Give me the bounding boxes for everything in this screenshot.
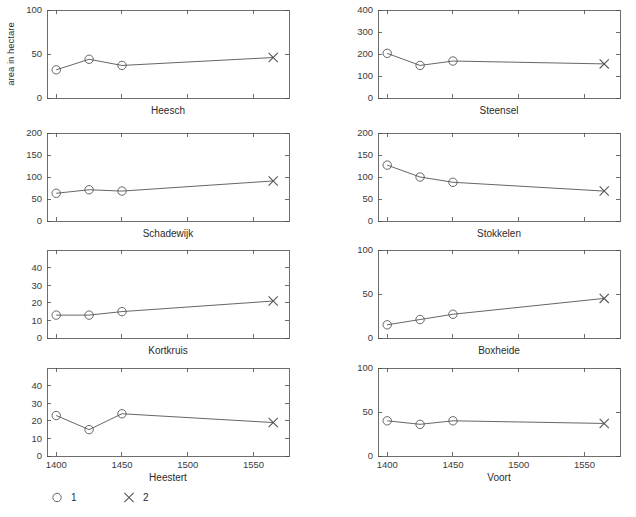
- panel-kortkruis: 010203040Kortkruis: [31, 250, 289, 356]
- y-tick-label: 150: [357, 149, 373, 160]
- y-tick-label: 100: [357, 70, 373, 81]
- y-tick-label: 200: [26, 127, 42, 138]
- plot-box: [378, 368, 620, 456]
- y-tick-label: 50: [362, 406, 373, 417]
- y-tick-label: 100: [26, 4, 42, 15]
- y-tick-label: 0: [368, 332, 373, 343]
- y-tick-label: 0: [37, 215, 42, 226]
- y-tick-label: 10: [31, 315, 42, 326]
- panel-voort: 0501001400145015001550Voort: [357, 362, 620, 483]
- panel-title-heestert: Heestert: [149, 472, 187, 483]
- y-tick-label: 30: [31, 280, 42, 291]
- y-tick-label: 30: [31, 398, 42, 409]
- panel-title-boxheide: Boxheide: [478, 345, 520, 356]
- plot-box: [378, 133, 620, 221]
- y-tick-label: 40: [31, 262, 42, 273]
- y-tick-label: 100: [357, 362, 373, 373]
- y-tick-label: 200: [357, 48, 373, 59]
- panel-schadewijk: 050100150200Schadewijk: [26, 127, 289, 239]
- y-tick-label: 0: [368, 450, 373, 461]
- figure-canvas: 050100Heesch0100200300400Steensel0501001…: [0, 0, 636, 517]
- panel-title-heesch: Heesch: [151, 105, 185, 116]
- panel-boxheide: 050100Boxheide: [357, 244, 620, 356]
- y-tick-label: 300: [357, 26, 373, 37]
- x-tick-label: 1400: [377, 459, 398, 470]
- x-tick-label: 1500: [177, 459, 198, 470]
- x-tick-label: 1450: [111, 459, 132, 470]
- plot-box: [47, 133, 289, 221]
- panel-title-voort: Voort: [487, 472, 511, 483]
- x-tick-label: 1450: [442, 459, 463, 470]
- y-tick-label: 100: [357, 244, 373, 255]
- legend-label-1: 1: [71, 492, 77, 503]
- panel-title-kortkruis: Kortkruis: [148, 345, 187, 356]
- y-tick-label: 20: [31, 415, 42, 426]
- y-axis-label: area in hectare: [5, 22, 16, 85]
- plot-box: [47, 10, 289, 98]
- y-tick-label: 100: [26, 171, 42, 182]
- x-tick-label: 1500: [508, 459, 529, 470]
- plot-box: [378, 10, 620, 98]
- y-tick-label: 50: [31, 48, 42, 59]
- panel-stokkelen: 050100150200Stokkelen: [357, 127, 620, 239]
- y-tick-label: 0: [37, 450, 42, 461]
- multi-panel-line-chart: 050100Heesch0100200300400Steensel0501001…: [0, 0, 636, 517]
- y-tick-label: 10: [31, 433, 42, 444]
- y-tick-label: 0: [37, 92, 42, 103]
- panel-title-steensel: Steensel: [480, 105, 519, 116]
- y-tick-label: 100: [357, 171, 373, 182]
- panel-heestert: 0102030401400145015001550Heestert: [31, 368, 289, 483]
- x-tick-label: 1550: [574, 459, 595, 470]
- legend-circle-marker: [53, 493, 61, 501]
- y-tick-label: 0: [368, 215, 373, 226]
- plot-box: [47, 250, 289, 338]
- plot-box: [47, 368, 289, 456]
- plot-box: [378, 250, 620, 338]
- legend-cross-marker: [124, 493, 133, 502]
- x-tick-label: 1550: [243, 459, 264, 470]
- panel-heesch: 050100Heesch: [26, 4, 289, 116]
- panel-title-stokkelen: Stokkelen: [477, 228, 521, 239]
- y-tick-label: 0: [368, 92, 373, 103]
- panel-steensel: 0100200300400Steensel: [357, 4, 620, 116]
- y-tick-label: 50: [362, 193, 373, 204]
- y-tick-label: 50: [362, 288, 373, 299]
- y-tick-label: 40: [31, 380, 42, 391]
- legend-label-2: 2: [143, 492, 149, 503]
- y-tick-label: 150: [26, 149, 42, 160]
- x-tick-label: 1400: [46, 459, 67, 470]
- y-tick-label: 20: [31, 297, 42, 308]
- y-tick-label: 400: [357, 4, 373, 15]
- legend: 12: [53, 492, 149, 503]
- y-tick-label: 200: [357, 127, 373, 138]
- y-tick-label: 0: [37, 332, 42, 343]
- panel-title-schadewijk: Schadewijk: [143, 228, 195, 239]
- y-tick-label: 50: [31, 193, 42, 204]
